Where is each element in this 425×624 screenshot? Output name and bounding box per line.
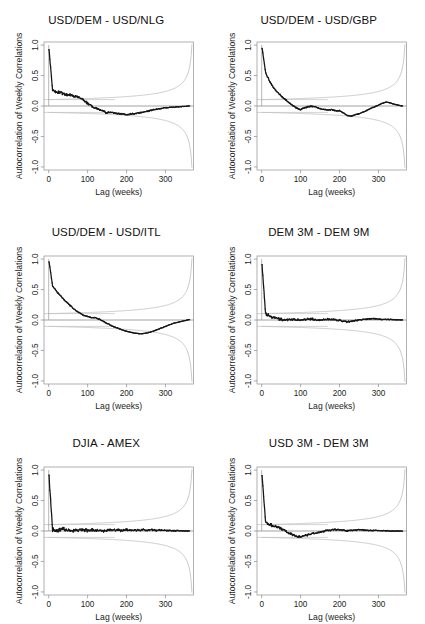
x-axis-label: Lag (weeks): [308, 401, 355, 411]
y-tick-label: 0.0: [31, 314, 40, 326]
y-tick-label: 0.5: [31, 283, 40, 295]
x-tick-label: 200: [332, 389, 346, 398]
y-tick-label: 0.5: [31, 69, 40, 81]
x-tick-label: 300: [159, 175, 173, 184]
y-tick-label: -1.0: [244, 584, 253, 599]
x-tick-label: 200: [120, 389, 134, 398]
acf-panel-2: USD/DEM - USD/GBP0100200300-1.0-0.50.00.…: [213, 0, 425, 208]
plot-area: 0100200300-1.0-0.50.00.51.0Lag (weeks)Au…: [0, 208, 213, 413]
y-tick-label: 0.5: [244, 69, 253, 81]
y-tick-label: -0.5: [31, 129, 40, 144]
x-tick-label: 100: [293, 600, 307, 609]
x-tick-label: 200: [332, 175, 346, 184]
plot-area: 0100200300-1.0-0.50.00.51.0Lag (weeks)Au…: [213, 413, 425, 624]
y-axis-label: Autocorrelation of Weekly Correlations: [14, 247, 24, 393]
y-tick-label: -0.5: [244, 129, 253, 144]
x-tick-label: 300: [159, 600, 173, 609]
plot-area: 0100200300-1.0-0.50.00.51.0Lag (weeks)Au…: [213, 208, 425, 413]
y-tick-label: -1.0: [31, 159, 40, 174]
y-tick-label: 1.0: [244, 253, 253, 265]
y-tick-label: -0.5: [244, 343, 253, 358]
acf-panel-6: USD 3M - DEM 3M0100200300-1.0-0.50.00.51…: [213, 413, 425, 624]
acf-series-line: [49, 262, 190, 334]
x-tick-label: 100: [81, 175, 95, 184]
y-tick-label: -0.5: [244, 554, 253, 569]
plot-area: 0100200300-1.0-0.50.00.51.0Lag (weeks)Au…: [0, 0, 213, 208]
y-axis-label: Autocorrelation of Weekly Correlations: [227, 458, 237, 604]
x-tick-label: 0: [259, 600, 264, 609]
ci-upper-band: [261, 44, 404, 99]
acf-series-points: [48, 261, 189, 334]
acf-series-line: [49, 50, 190, 115]
x-axis-label: Lag (weeks): [95, 612, 142, 622]
x-tick-label: 100: [81, 600, 95, 609]
plot-area: 0100200300-1.0-0.50.00.51.0Lag (weeks)Au…: [0, 413, 213, 624]
y-tick-label: 0.0: [31, 525, 40, 537]
y-axis-label: Autocorrelation of Weekly Correlations: [227, 247, 237, 393]
x-tick-label: 300: [159, 389, 173, 398]
y-tick-label: -1.0: [244, 373, 253, 388]
x-axis-label: Lag (weeks): [308, 612, 355, 622]
x-tick-label: 100: [293, 389, 307, 398]
x-tick-label: 0: [46, 600, 51, 609]
ci-lower-band: [49, 537, 192, 592]
ci-upper-band: [49, 469, 192, 524]
acf-series-points: [261, 475, 402, 538]
ci-lower-band: [49, 326, 192, 381]
x-tick-label: 0: [46, 389, 51, 398]
y-axis-label: Autocorrelation of Weekly Correlations: [14, 33, 24, 179]
y-tick-label: 0.5: [244, 494, 253, 506]
x-tick-label: 100: [293, 175, 307, 184]
ci-lower-band: [261, 112, 404, 167]
acf-panel-4: DEM 3M - DEM 9M0100200300-1.0-0.50.00.51…: [213, 208, 425, 413]
ci-lower-band: [261, 537, 404, 592]
y-tick-label: 1.0: [244, 464, 253, 476]
x-tick-label: 0: [259, 175, 264, 184]
acf-panel-1: USD/DEM - USD/NLG0100200300-1.0-0.50.00.…: [0, 0, 213, 208]
plot-area: 0100200300-1.0-0.50.00.51.0Lag (weeks)Au…: [213, 0, 425, 208]
y-axis-label: Autocorrelation of Weekly Correlations: [227, 33, 237, 179]
acf-series-points: [48, 49, 189, 115]
acf-panel-3: USD/DEM - USD/ITL0100200300-1.0-0.50.00.…: [0, 208, 213, 413]
y-tick-label: 1.0: [244, 39, 253, 51]
x-tick-label: 200: [332, 600, 346, 609]
x-tick-label: 0: [46, 175, 51, 184]
y-tick-label: -0.5: [31, 343, 40, 358]
acf-series-line: [49, 475, 190, 532]
y-tick-label: -1.0: [244, 159, 253, 174]
y-tick-label: -1.0: [31, 584, 40, 599]
y-tick-label: 0.5: [244, 283, 253, 295]
y-tick-label: 0.0: [244, 314, 253, 326]
y-tick-label: 0.5: [31, 494, 40, 506]
x-tick-label: 300: [371, 175, 385, 184]
y-tick-label: 0.0: [31, 100, 40, 112]
x-tick-label: 300: [371, 600, 385, 609]
y-tick-label: 0.0: [244, 525, 253, 537]
x-axis-label: Lag (weeks): [308, 187, 355, 197]
acf-series-line: [262, 476, 403, 538]
y-axis-label: Autocorrelation of Weekly Correlations: [14, 458, 24, 604]
y-tick-label: 0.0: [244, 100, 253, 112]
ci-upper-band: [261, 258, 404, 313]
ci-upper-band: [49, 44, 192, 99]
x-axis-label: Lag (weeks): [95, 187, 142, 197]
y-tick-label: 1.0: [31, 464, 40, 476]
x-axis-label: Lag (weeks): [95, 401, 142, 411]
acf-panel-5: DJIA - AMEX0100200300-1.0-0.50.00.51.0La…: [0, 413, 213, 624]
y-tick-label: -0.5: [31, 554, 40, 569]
y-tick-label: 1.0: [31, 253, 40, 265]
x-tick-label: 100: [81, 389, 95, 398]
acf-series-points: [261, 264, 402, 323]
ci-lower-band: [261, 326, 404, 381]
y-tick-label: -1.0: [31, 373, 40, 388]
ci-lower-band: [49, 112, 192, 167]
x-tick-label: 200: [120, 175, 134, 184]
acf-series-points: [261, 48, 402, 117]
ci-upper-band: [261, 469, 404, 524]
acf-figure-grid: USD/DEM - USD/NLG0100200300-1.0-0.50.00.…: [0, 0, 425, 624]
x-tick-label: 300: [371, 389, 385, 398]
x-tick-label: 200: [120, 600, 134, 609]
y-tick-label: 1.0: [31, 39, 40, 51]
x-tick-label: 0: [259, 389, 264, 398]
